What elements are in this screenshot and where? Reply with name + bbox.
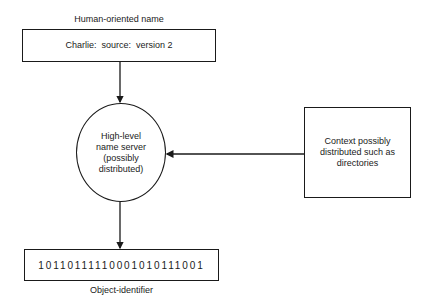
object-identifier-box: 10110111110001010111001 — [24, 249, 219, 281]
human-name-box: Charlie: source: version 2 — [22, 29, 216, 62]
name-server-text: High-level name server (possibly distrib… — [96, 131, 146, 175]
human-name-text: Charlie: source: version 2 — [65, 40, 172, 51]
object-identifier-label: Object-identifier — [24, 285, 219, 295]
name-server-node: High-level name server (possibly distrib… — [76, 103, 166, 202]
context-box: Context possibly distributed such as dir… — [304, 107, 411, 198]
human-oriented-name-label: Human-oriented name — [22, 14, 216, 24]
context-text: Context possibly distributed such as dir… — [320, 136, 395, 169]
object-identifier-bits: 10110111110001010111001 — [38, 260, 204, 271]
